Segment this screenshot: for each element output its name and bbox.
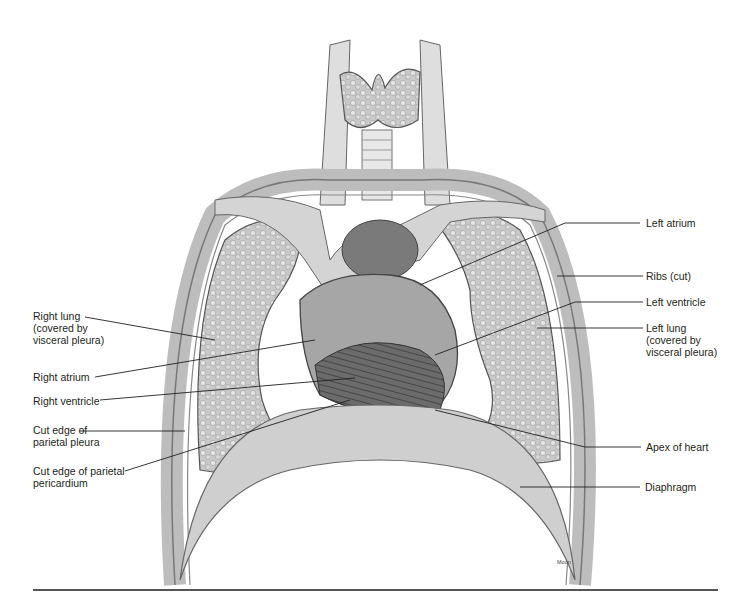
- ventricle-shape: [315, 343, 445, 415]
- label-diaphragm: Diaphragm: [645, 481, 696, 493]
- label-right-lung: Right lung (covered by visceral pleura): [33, 310, 104, 346]
- label-cut-edge-parietal-pleura: Cut edge of parietal pleura: [33, 424, 100, 448]
- label-ribs-cut: Ribs (cut): [646, 270, 691, 282]
- label-right-ventricle: Right ventricle: [33, 395, 100, 407]
- label-apex-of-heart: Apex of heart: [646, 441, 708, 453]
- label-right-atrium: Right atrium: [33, 371, 90, 383]
- aortic-arch: [342, 220, 418, 280]
- label-left-atrium: Left atrium: [646, 217, 696, 229]
- label-left-ventricle: Left ventricle: [646, 296, 706, 308]
- thorax-illustration: [0, 0, 751, 598]
- label-cut-edge-parietal-pericardium: Cut edge of parietal pericardium: [33, 465, 125, 489]
- label-left-lung: Left lung (covered by visceral pleura): [646, 322, 717, 358]
- artist-credit: Moon: [557, 559, 571, 565]
